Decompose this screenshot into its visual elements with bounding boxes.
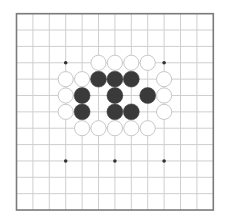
stones-layer	[58, 55, 172, 136]
white-stone	[124, 121, 139, 136]
white-stone	[107, 55, 122, 70]
black-stone	[140, 88, 156, 104]
black-stone	[123, 104, 139, 120]
star-point	[162, 159, 166, 163]
star-point	[64, 159, 68, 163]
white-stone	[107, 121, 122, 136]
white-stone	[124, 55, 139, 70]
white-stone	[91, 55, 106, 70]
white-stone	[91, 121, 106, 136]
go-board[interactable]	[0, 0, 226, 222]
white-stone	[58, 72, 73, 87]
black-stone	[107, 104, 123, 120]
white-stone	[75, 121, 90, 136]
white-stone	[140, 121, 155, 136]
star-point	[113, 159, 117, 163]
star-point	[162, 61, 166, 65]
white-stone	[58, 88, 73, 103]
black-stone	[123, 71, 139, 87]
white-stone	[157, 104, 172, 119]
white-stone	[157, 88, 172, 103]
black-stone	[74, 104, 90, 120]
white-stone	[140, 55, 155, 70]
star-point	[64, 61, 68, 65]
black-stone	[107, 88, 123, 104]
white-stone	[157, 72, 172, 87]
black-stone	[74, 88, 90, 104]
black-stone	[91, 71, 107, 87]
black-stone	[107, 71, 123, 87]
white-stone	[58, 104, 73, 119]
white-stone	[75, 72, 90, 87]
